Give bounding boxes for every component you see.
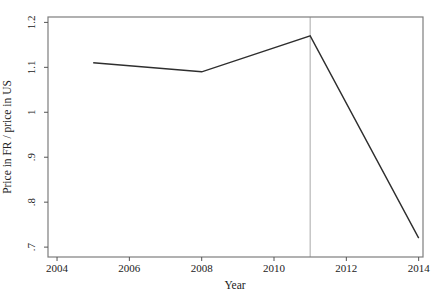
x-axis-ticks: 200420062008201020122014 <box>46 257 430 274</box>
y-axis-ticks: .7.8.911.11.2 <box>25 16 48 252</box>
x-tick-label: 2008 <box>191 262 214 274</box>
y-tick-label: .8 <box>25 198 37 207</box>
plot-border <box>48 17 423 257</box>
line-chart-figure: .7.8.911.11.2 200420062008201020122014 Y… <box>0 0 439 300</box>
y-axis-title: Price in FR / price in US <box>1 80 14 194</box>
x-axis-title: Year <box>224 279 245 291</box>
x-tick-label: 2014 <box>408 262 431 274</box>
x-tick-label: 2006 <box>118 262 141 274</box>
y-tick-label: .7 <box>25 242 37 251</box>
x-tick-label: 2004 <box>46 262 69 274</box>
x-tick-label: 2010 <box>263 262 286 274</box>
price-ratio-line <box>93 36 419 238</box>
chart-canvas: .7.8.911.11.2 200420062008201020122014 Y… <box>0 0 439 300</box>
y-tick-label: 1 <box>25 110 37 116</box>
y-tick-label: 1.2 <box>25 16 37 30</box>
y-tick-label: 1.1 <box>25 60 37 74</box>
x-tick-label: 2012 <box>335 262 357 274</box>
y-tick-label: .9 <box>25 153 37 162</box>
